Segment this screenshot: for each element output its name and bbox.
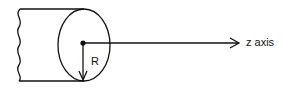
radius-label: R	[91, 55, 99, 67]
cylinder-wavy-cut-edge	[18, 9, 21, 81]
z-axis-label: z axis	[246, 36, 274, 48]
cylinder-diagram	[0, 0, 284, 88]
